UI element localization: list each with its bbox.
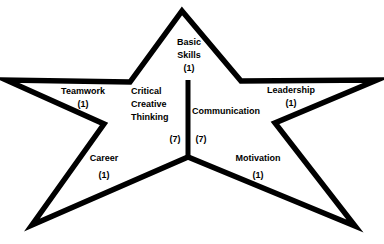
label-career-line1: Career xyxy=(90,152,119,165)
label-motivation-count: (1) xyxy=(236,169,281,182)
label-critical-creative-thinking: Critical Creative Thinking xyxy=(131,85,169,124)
label-critical-creative-thinking-line1: Critical xyxy=(131,85,169,98)
label-critical-creative-thinking-count-wrap: (7) xyxy=(170,133,181,146)
label-career: Career (1) xyxy=(90,152,119,182)
star-diagram-canvas: Basic Skills (1) Teamwork (1) Leadership… xyxy=(0,0,384,244)
label-teamwork: Teamwork (1) xyxy=(61,85,105,111)
label-communication: Communication xyxy=(192,105,260,118)
label-leadership: Leadership (1) xyxy=(267,84,315,110)
label-basic-skills-line1: Basic xyxy=(177,36,201,49)
label-motivation: Motivation (1) xyxy=(236,152,281,182)
label-teamwork-line1: Teamwork xyxy=(61,85,105,98)
label-communication-count: (7) xyxy=(196,133,207,146)
label-career-count: (1) xyxy=(90,169,119,182)
label-critical-creative-thinking-line2: Creative xyxy=(131,98,169,111)
label-leadership-count: (1) xyxy=(267,97,315,110)
label-basic-skills-count: (1) xyxy=(177,62,201,75)
label-leadership-line1: Leadership xyxy=(267,84,315,97)
label-critical-creative-thinking-count: (7) xyxy=(170,133,181,146)
label-critical-creative-thinking-line3: Thinking xyxy=(131,111,169,124)
label-teamwork-count: (1) xyxy=(61,98,105,111)
label-basic-skills: Basic Skills (1) xyxy=(177,36,201,75)
label-communication-line1: Communication xyxy=(192,105,260,118)
label-motivation-line1: Motivation xyxy=(236,152,281,165)
label-communication-count-wrap: (7) xyxy=(196,133,207,146)
label-basic-skills-line2: Skills xyxy=(177,49,201,62)
